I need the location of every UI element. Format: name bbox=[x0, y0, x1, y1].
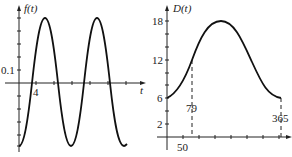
left-curve bbox=[19, 18, 127, 146]
left-chart: f(t) 0.1 4 t bbox=[1, 2, 146, 152]
annotation-365-label: 365 bbox=[272, 112, 289, 124]
left-ylabel: f(t) bbox=[24, 2, 38, 15]
right-ytick-18: 18 bbox=[152, 15, 164, 27]
annotation-79-label: 79 bbox=[186, 102, 198, 114]
right-curve bbox=[167, 21, 281, 98]
left-xlabel: t bbox=[140, 84, 144, 96]
chart-figure: f(t) 0.1 4 t bbox=[0, 0, 292, 157]
right-chart: D(t) 18 12 6 2 50 79 365 bbox=[152, 2, 292, 153]
left-y-arrow-icon bbox=[17, 5, 21, 11]
right-xtick-50: 50 bbox=[177, 141, 189, 153]
right-y-arrow-icon bbox=[165, 5, 169, 11]
left-xtick-label: 4 bbox=[33, 86, 39, 98]
left-ytick-label: 0.1 bbox=[1, 64, 15, 76]
right-ytick-6: 6 bbox=[157, 92, 163, 104]
right-ytick-12: 12 bbox=[152, 54, 163, 66]
right-x-arrow-icon bbox=[286, 135, 292, 139]
right-ytick-2: 2 bbox=[157, 118, 163, 130]
right-ylabel: D(t) bbox=[172, 2, 192, 15]
